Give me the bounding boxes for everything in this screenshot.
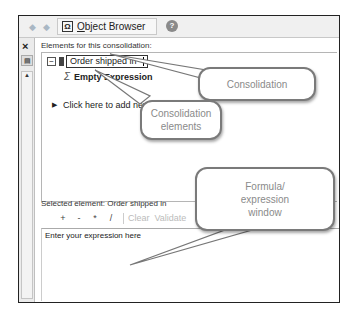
callout-consolidation-elements: Consolidation elements: [140, 100, 222, 140]
callout-consolidation: Consolidation: [198, 67, 316, 101]
callout-pointers: [0, 0, 357, 316]
callout-formula-window: Formula/ expression window: [195, 167, 335, 231]
